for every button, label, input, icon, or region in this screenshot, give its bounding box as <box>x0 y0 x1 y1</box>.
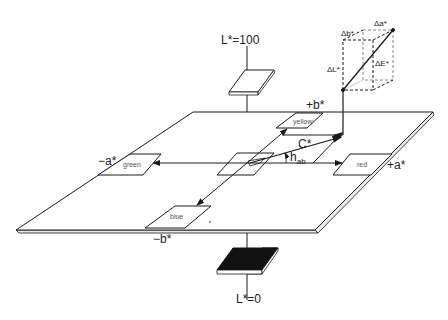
black-patch <box>217 248 278 274</box>
delta-e-label: ΔE* <box>375 59 389 68</box>
plus-a-label: +a* <box>387 158 406 172</box>
svg-text:green: green <box>123 161 141 169</box>
minus-b-label: −b* <box>153 232 172 246</box>
delta-b-label: Δb* <box>341 29 354 38</box>
l0-label: L*=0 <box>236 292 261 306</box>
white-patch <box>229 70 275 95</box>
svg-text:red: red <box>357 161 367 168</box>
l100-label: L*=100 <box>221 33 260 47</box>
plus-b-label: +b* <box>306 98 325 112</box>
minus-a-label: −a* <box>98 154 117 168</box>
cielab-diagram: L*=100 yellow green red blue C* hab <box>0 0 448 320</box>
svg-text:blue: blue <box>170 213 183 220</box>
chroma-label: C* <box>298 137 312 151</box>
delta-a-label: Δa* <box>374 19 387 28</box>
delta-l-label: ΔL* <box>327 65 340 74</box>
svg-text:yellow: yellow <box>293 118 313 126</box>
